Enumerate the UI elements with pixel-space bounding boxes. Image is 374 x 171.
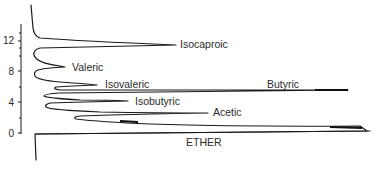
y-tick-0: 0 [8, 128, 14, 139]
peak-label-acetic: Acetic [213, 106, 242, 118]
y-tick-8: 8 [8, 66, 14, 77]
peak-label-isobutyric: Isobutyric [135, 95, 180, 107]
ether-baseline [36, 131, 370, 134]
acetic-tail-mark [120, 121, 138, 122]
ether-label: ETHER [186, 136, 222, 148]
peak-label-butyric: Butyric [267, 78, 299, 90]
peak-label-isocaproic: Isocaproic [180, 38, 228, 50]
y-tick-12: 12 [3, 35, 15, 46]
y-axis: 12 8 4 0 [3, 24, 21, 139]
chromatogram-plot: 12 8 4 0 Isocaproic Valeric Isovaleric B… [0, 0, 374, 171]
solvent-peak-tip [330, 127, 362, 128]
peak-label-isovaleric: Isovaleric [105, 78, 149, 90]
chromatogram: 12 8 4 0 Isocaproic Valeric Isovaleric B… [0, 0, 374, 171]
y-tick-4: 4 [8, 97, 14, 108]
peak-label-valeric: Valeric [72, 61, 103, 73]
